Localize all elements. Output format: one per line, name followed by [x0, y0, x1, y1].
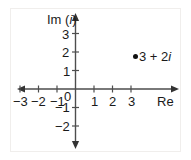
y-tick-label-pos3: 3	[62, 28, 69, 41]
y-tick-label-pos2: 2	[62, 46, 69, 59]
axes-and-ticks	[0, 0, 191, 160]
real-axis-title: Re	[157, 95, 174, 108]
x-tick-label-pos2: 2	[109, 95, 116, 108]
real-axis-left-arrowhead	[17, 85, 25, 92]
imaginary-axis-title-prefix: Im (	[47, 12, 69, 27]
x-tick-label-pos3: 3	[128, 95, 135, 108]
y-tick-label-neg1: −1	[55, 101, 70, 114]
imaginary-axis-bottom-arrowhead	[72, 141, 79, 149]
x-tick-label-pos1: 1	[91, 95, 98, 108]
point-label-3-plus-2i: 3 + 2i	[139, 50, 171, 63]
y-tick-label-pos1: 1	[63, 65, 70, 78]
point-marker-3-plus-2i	[133, 54, 138, 59]
y-tick-label-neg2: −2	[55, 120, 70, 133]
imaginary-axis-title-suffix: )	[72, 12, 76, 27]
complex-plane-figure: −3 −2 −1 1 2 3 0 3 2 1 −1 −2 Im (i) Re 3…	[0, 0, 191, 160]
real-axis-right-arrowhead	[171, 85, 179, 92]
point-label-operator: +	[146, 49, 161, 64]
x-tick-label-neg2: −2	[31, 95, 46, 108]
imaginary-axis-title: Im (i)	[47, 13, 77, 26]
x-tick-label-neg3: −3	[13, 95, 28, 108]
point-label-unit: i	[168, 49, 171, 64]
